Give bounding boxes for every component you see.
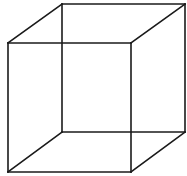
connector-top-left bbox=[8, 4, 62, 43]
cube-edges bbox=[8, 4, 185, 172]
necker-cube-diagram bbox=[0, 0, 187, 176]
connector-top-right bbox=[131, 4, 185, 43]
connector-bottom-left bbox=[8, 132, 62, 172]
connector-bottom-right bbox=[131, 132, 185, 172]
